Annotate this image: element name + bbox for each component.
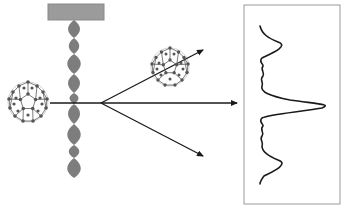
source-fullerene-molecule <box>7 80 49 123</box>
lower-diffracted-beam-arrow <box>101 103 203 156</box>
diffraction-grating <box>67 20 81 178</box>
diagram-canvas <box>0 0 342 207</box>
grating-holder-bar <box>48 4 104 20</box>
upper-diffracted-beam-arrow <box>101 50 203 103</box>
interference-pattern-panel <box>244 5 340 204</box>
